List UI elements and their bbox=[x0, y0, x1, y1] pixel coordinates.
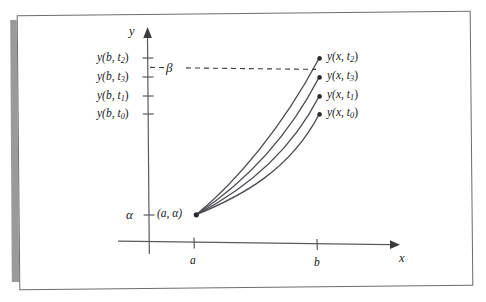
curve-label-y-x-t3: y(x, t3) bbox=[327, 70, 358, 84]
curve-label-y-x-t0-arg: (x, t bbox=[332, 106, 350, 118]
origin-point-label: (a, α) bbox=[157, 208, 182, 220]
y-tick-label-y-b-t1: y(b, t1) bbox=[97, 90, 129, 104]
curve-y-x-t3 bbox=[197, 78, 320, 215]
y-tick-label-y-b-t3: y(b, t3) bbox=[97, 71, 129, 85]
y-tick-label-y-b-t0: y(b, t0) bbox=[97, 108, 129, 122]
y-tick-label-y-b-t2: y(b, t2) bbox=[97, 52, 129, 66]
plot-canvas bbox=[0, 0, 486, 302]
curve-label-y-x-t3-close: ) bbox=[354, 69, 358, 81]
curve-label-y-x-t2-close: ) bbox=[354, 50, 358, 62]
x-axis-label: x bbox=[399, 252, 405, 265]
curve-label-y-x-t2: y(x, t2) bbox=[327, 51, 358, 65]
beta-label: β bbox=[166, 61, 172, 74]
y-tick-label-alpha: α bbox=[126, 208, 133, 221]
curve-label-y-x-t0-close: ) bbox=[354, 106, 358, 118]
curve-y-x-t0 bbox=[197, 115, 320, 215]
endpoint-dot-y-x-t0 bbox=[317, 112, 322, 117]
y-tick-label-y-b-t0-close: ) bbox=[125, 107, 129, 119]
y-tick-label-y-b-t2-close: ) bbox=[125, 51, 129, 63]
curve-label-y-x-t1-close: ) bbox=[354, 88, 358, 100]
endpoint-dot-y-x-t2 bbox=[317, 56, 322, 61]
y-axis bbox=[142, 27, 154, 254]
x-tick-label-b: b bbox=[314, 257, 320, 269]
endpoint-dot-y-x-t3 bbox=[317, 75, 322, 80]
y-axis-label: y bbox=[129, 25, 135, 38]
curve-label-y-x-t2-arg: (x, t bbox=[332, 50, 350, 62]
curve-label-y-x-t0: y(x, t0) bbox=[327, 107, 358, 121]
y-tick-label-y-b-t2-arg: (b, t bbox=[102, 51, 121, 63]
y-tick-label-y-b-t3-close: ) bbox=[125, 70, 129, 82]
origin-point-dot bbox=[194, 212, 199, 217]
y-tick-label-y-b-t3-arg: (b, t bbox=[102, 70, 121, 82]
beta-dashed-line bbox=[150, 67, 316, 69]
curve-label-y-x-t1: y(x, t1) bbox=[327, 89, 358, 103]
endpoint-dot-y-x-t1 bbox=[317, 94, 322, 99]
y-tick-label-y-b-t1-close: ) bbox=[125, 89, 129, 101]
curve-label-y-x-t1-arg: (x, t bbox=[332, 88, 350, 100]
x-axis bbox=[118, 238, 400, 251]
curve-y-x-t1 bbox=[197, 97, 320, 215]
curve-label-y-x-t3-arg: (x, t bbox=[332, 69, 350, 81]
solution-curves bbox=[197, 59, 320, 215]
y-tick-label-y-b-t0-arg: (b, t bbox=[102, 107, 121, 119]
curve-endpoint-dots bbox=[194, 56, 322, 217]
x-tick-label-a: a bbox=[190, 255, 196, 267]
figure-root: y x a b y(b, t2) y(b, t3) y(b, t1) y(b, … bbox=[0, 0, 486, 302]
y-tick-label-y-b-t1-arg: (b, t bbox=[102, 89, 121, 101]
curve-y-x-t2 bbox=[197, 59, 320, 215]
